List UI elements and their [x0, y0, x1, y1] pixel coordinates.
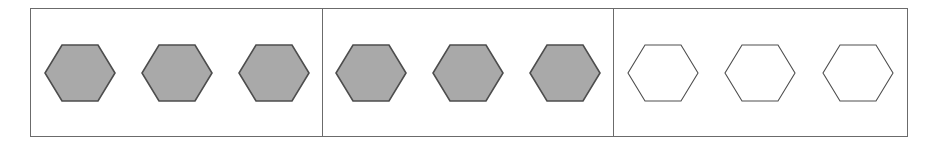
hexagon-filled-2 [141, 43, 213, 103]
hexagon-filled-5 [432, 43, 504, 103]
hexagon-icon [432, 43, 504, 103]
hexagon-empty-1 [627, 43, 699, 103]
hexagon-filled-1 [44, 43, 116, 103]
cell-1 [31, 9, 323, 136]
hexagon-filled-3 [238, 43, 310, 103]
diagram-canvas [0, 0, 926, 145]
hexagon-icon [44, 43, 116, 103]
hexagon-icon [335, 43, 407, 103]
hexagon-icon [141, 43, 213, 103]
figure-frame [30, 8, 908, 137]
hexagon-icon [238, 43, 310, 103]
cell-2 [323, 9, 614, 136]
hexagon-empty-2 [724, 43, 796, 103]
cell-3 [614, 9, 907, 136]
hexagon-icon [529, 43, 601, 103]
hexagon-filled-6 [529, 43, 601, 103]
hexagon-icon [822, 43, 894, 103]
hexagon-icon [627, 43, 699, 103]
hexagon-icon [724, 43, 796, 103]
hexagon-empty-3 [822, 43, 894, 103]
hexagon-filled-4 [335, 43, 407, 103]
